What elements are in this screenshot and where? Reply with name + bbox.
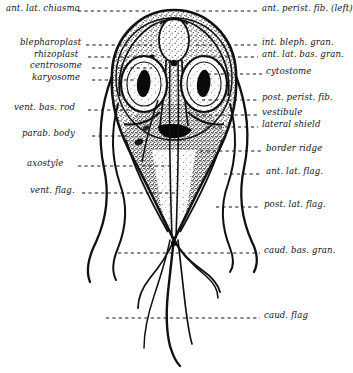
label-parab-body: parab. body bbox=[22, 129, 75, 138]
label-vent-bas-rod: vent. bas. rod bbox=[14, 103, 75, 112]
int-bleph-gran bbox=[171, 60, 177, 66]
label-int-bleph-gran: int. bleph. gran. bbox=[262, 38, 334, 47]
caud-flag bbox=[167, 238, 180, 366]
nucleus-right bbox=[181, 56, 227, 112]
label-ant-lat-flag: ant. lat. flag. bbox=[266, 167, 323, 176]
label-centrosome: centrosome bbox=[30, 61, 82, 70]
ant-lat-flag-left bbox=[88, 76, 112, 282]
label-border-ridge: border ridge bbox=[266, 144, 322, 153]
label-post-perist-fib: post. perist. fib. bbox=[262, 93, 333, 102]
label-ant-perist-fib-left: ant. perist. fib. (left) bbox=[262, 4, 353, 13]
label-caud-flag: caud. flag bbox=[264, 311, 308, 320]
label-vestibule: vestibule bbox=[262, 108, 302, 117]
caud-bas-gran bbox=[171, 240, 177, 246]
label-axostyle: axostyle bbox=[27, 159, 64, 168]
caud-flag-c bbox=[144, 240, 170, 348]
cytostome bbox=[159, 18, 189, 62]
label-ant-lat-bas-gran: ant. lat. bas. gran. bbox=[262, 50, 344, 59]
label-ant-lat-chiasma: ant. lat. chiasma bbox=[6, 4, 80, 13]
label-karyosome: karyosome bbox=[32, 73, 80, 82]
label-blepharoplast: blepharoplast bbox=[20, 38, 81, 47]
label-cytostome: cytostome bbox=[266, 67, 311, 76]
label-vent-flag: vent. flag. bbox=[30, 186, 75, 195]
label-lateral-shield: lateral shield bbox=[262, 120, 321, 129]
label-rhizoplast: rhizoplast bbox=[34, 50, 78, 59]
nucleus-left bbox=[121, 56, 167, 112]
label-caud-bas-gran: caud. bas. gran. bbox=[264, 246, 336, 255]
label-post-lat-flag: post. lat. flag. bbox=[264, 200, 326, 209]
